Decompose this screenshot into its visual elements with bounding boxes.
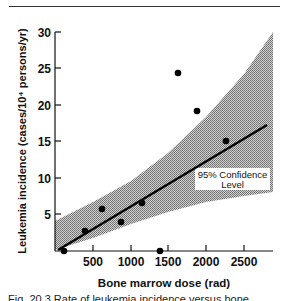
data-point <box>175 70 182 77</box>
svg-text:1000: 1000 <box>118 255 145 269</box>
data-point <box>99 206 106 213</box>
svg-text:30: 30 <box>38 26 52 40</box>
x-ticks <box>93 245 244 251</box>
figure-caption: Fig. 20.3 Rate of leukemia incidence ver… <box>8 294 283 301</box>
data-point <box>61 248 68 255</box>
svg-text:1500: 1500 <box>155 255 182 269</box>
data-point <box>118 219 125 226</box>
svg-text:2500: 2500 <box>231 255 258 269</box>
x-tick-labels: 500 1000 1500 2000 2500 <box>83 255 258 269</box>
data-point <box>82 228 89 235</box>
svg-text:25: 25 <box>38 62 52 76</box>
data-point <box>194 108 201 115</box>
ci-label-line2: Level <box>221 179 244 190</box>
svg-text:10: 10 <box>38 172 52 186</box>
data-point <box>223 138 230 145</box>
y-axis-title: Leukemia incidence (cases/10⁴ persons/yr… <box>16 28 28 254</box>
svg-text:15: 15 <box>38 135 52 149</box>
svg-text:2000: 2000 <box>193 255 220 269</box>
data-point <box>157 248 164 255</box>
scatter-chart: 95% Confidence Level 30 25 20 15 10 5 50… <box>0 0 289 301</box>
y-ticks <box>55 32 61 214</box>
svg-text:5: 5 <box>44 208 51 222</box>
data-point <box>139 200 146 207</box>
y-tick-labels: 30 25 20 15 10 5 <box>38 26 52 222</box>
svg-text:20: 20 <box>38 99 52 113</box>
svg-text:500: 500 <box>83 255 103 269</box>
x-axis-title: Bone marrow dose (rad) <box>98 277 230 289</box>
